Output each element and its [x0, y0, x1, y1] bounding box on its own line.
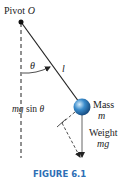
figure-caption: FIGURE 6.1: [33, 169, 86, 179]
pivot-label: Pivot O: [4, 5, 35, 16]
tangential-component-line: [62, 123, 80, 157]
tangential-force-label: mg sin θ: [12, 104, 44, 114]
tangential-tick: [57, 119, 66, 127]
pendulum-diagram: Pivot O θ l mg sin θ Mass m Weight mg FI…: [0, 0, 127, 183]
pivot-point-icon: [19, 20, 24, 25]
mass-label: Mass: [93, 99, 114, 110]
angle-label: θ: [30, 60, 35, 71]
mass-ball-icon: [74, 99, 91, 116]
weight-label: Weight: [89, 127, 118, 138]
length-label: l: [62, 63, 65, 74]
weight-symbol: mg: [97, 138, 109, 149]
mass-symbol: m: [98, 110, 105, 121]
angle-arc: [22, 67, 50, 73]
